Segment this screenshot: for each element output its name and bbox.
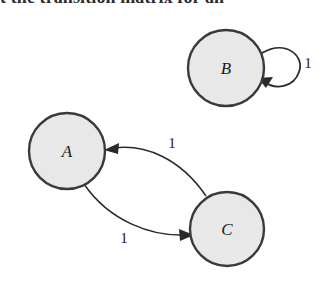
arrowhead-into-a [104,143,119,154]
node-a[interactable]: A [29,113,105,189]
edge-label-c-to-a: 1 [168,135,176,151]
node-label-c: C [221,220,233,239]
node-b[interactable]: B [188,30,264,106]
edge-a-to-c [84,184,194,241]
node-label-b: B [221,59,232,78]
state-transition-diagram: B A C 1 1 1 [0,0,327,282]
node-c[interactable]: C [190,192,264,266]
edge-path-a-to-c [84,184,184,235]
edge-c-to-a [104,143,206,196]
scanned-page: t the transition matrix for an B A [0,0,327,282]
node-label-a: A [61,142,73,161]
edge-label-a-to-c: 1 [120,230,128,246]
edge-path-c-to-a [114,147,206,196]
edge-label-b-to-b: 1 [304,55,312,71]
